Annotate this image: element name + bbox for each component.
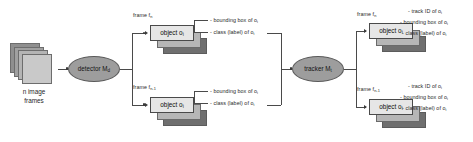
arrow-detector-upper [145,31,148,35]
detector-label: detector Md [78,65,110,73]
tracker-output-0-object-stack: object oi [369,23,427,53]
detector-output-1-object-box[interactable]: object oi [150,97,194,113]
connector-tracker-out [344,69,356,70]
tracker-label-subscript: t [330,68,331,73]
detector-output-0-attribute-0: - bounding box of oi [210,17,258,25]
connector-merge-upper [267,33,281,34]
detector-label-subscript: d [108,68,111,73]
detector-output-1-attribute-0: - bounding box of oi [210,88,258,96]
detector-output-0-attr-leader-0 [194,20,208,21]
detector-node[interactable]: detector Md [68,56,120,82]
tracker-output-1-attribute-1: - bounding box of oi [400,94,448,102]
tracker-output-0-attribute-1: - bounding box of oi [400,19,448,27]
arrow-tracker-upper [364,29,367,33]
tracker-output-1-object-stack: object oi [369,99,427,129]
connector-merge-lower [267,105,281,106]
tracker-output-1-attribute-2: - class (label) of oi [402,105,446,113]
detector-output-1-frame-label: frame fn-1 [133,84,156,92]
tracker-label: tracker Mt [304,65,332,73]
tracker-node[interactable]: tracker Mt [292,56,344,82]
input-image-stack [10,43,58,87]
tracker-output-0-attribute-2: - class (label) of oi [402,30,446,38]
arrow-tracker-lower [364,105,367,109]
tracker-output-1-frame-label: frame fn-1 [357,86,380,94]
detector-output-0-attr-bracket [194,20,195,32]
tracker-output-1-attribute-0: - track ID of oi [408,83,442,91]
detector-output-0-attribute-1: - class (label) of oi [210,29,254,37]
detector-output-1-attr-bracket [194,91,195,103]
object-label: object oi [379,103,402,111]
diagram-canvas: n image frames detector Md frame fn obje… [0,0,473,142]
arrow-detector-lower [145,103,148,107]
object-label: object oi [160,101,183,109]
connector-detector-out [120,69,132,70]
object-label: object oi [160,29,183,37]
detector-output-1-attr-leader-1 [194,103,208,104]
detector-output-0-object-stack: object oi [150,25,208,55]
image-frame-front [22,54,52,84]
object-label: object oi [379,27,402,35]
detector-output-0-attr-leader-1 [194,32,208,33]
detector-output-0-frame-label: frame fn [133,12,152,20]
input-label-line1: n image [0,88,69,97]
detector-output-1-object-stack: object oi [150,97,208,127]
detector-output-0-object-box[interactable]: object oi [150,25,194,41]
input-label-line2: frames [0,97,69,106]
tracker-output-0-frame-label: frame fn [357,11,376,19]
detector-output-1-attribute-1: - class (label) of oi [210,100,254,108]
connector-tracker-branch-vertical [356,31,357,107]
input-stack-label: n image frames [0,88,69,105]
detector-output-1-attr-leader-0 [194,91,208,92]
tracker-output-0-attribute-0: - track ID of oi [408,8,442,16]
connector-detector-branch-vertical [132,33,133,105]
